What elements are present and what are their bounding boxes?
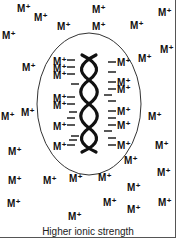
- free-cation-label: M+: [1, 112, 15, 122]
- free-cation-label: M+: [127, 205, 141, 215]
- free-cation-label: M+: [148, 112, 162, 122]
- free-cation-label: M+: [7, 199, 21, 209]
- negative-charge-dashes-right: [104, 62, 116, 145]
- free-cation-label: M+: [124, 156, 138, 166]
- free-cation-label: M+: [43, 176, 57, 186]
- free-cation-label: M+: [127, 183, 141, 193]
- bound-cation-label: M+: [117, 141, 131, 151]
- free-cation-label: M+: [160, 45, 174, 55]
- free-cation-label: M+: [130, 21, 144, 31]
- free-cation-label: M+: [17, 4, 31, 14]
- bound-cation-label: M+: [53, 142, 67, 152]
- bound-cation-label: M+: [53, 71, 67, 81]
- free-cation-label: M+: [68, 212, 82, 222]
- free-cation-label: M+: [21, 108, 35, 118]
- free-cation-label: M+: [157, 168, 171, 178]
- free-cation-label: M+: [138, 54, 152, 64]
- free-cation-label: M+: [98, 173, 112, 183]
- free-cation-label: M+: [57, 22, 71, 32]
- negative-charge-dashes-left: [67, 60, 79, 145]
- free-cation-label: M+: [2, 31, 16, 41]
- free-cation-label: M+: [103, 198, 117, 208]
- bound-cation-label: M+: [117, 121, 131, 131]
- bound-cation-label: M+: [117, 85, 131, 95]
- free-cation-label: M+: [92, 22, 106, 32]
- bound-cation-label: M+: [117, 58, 131, 68]
- figure-caption: Higher ionic strength: [0, 226, 176, 237]
- free-cation-label: M+: [8, 147, 22, 157]
- free-cation-label: M+: [34, 13, 48, 23]
- dna-helix-icon: [81, 55, 98, 152]
- bound-cation-label: M+: [53, 101, 67, 111]
- free-cation-label: M+: [92, 5, 106, 15]
- free-cation-label: M+: [69, 174, 83, 184]
- free-cation-label: M+: [22, 63, 36, 73]
- free-cation-label: M+: [8, 176, 22, 186]
- free-cation-label: M+: [155, 141, 169, 151]
- bound-cation-label: M+: [117, 107, 131, 117]
- bound-cation-label: M+: [53, 122, 67, 132]
- free-cation-label: M+: [158, 8, 172, 18]
- free-cation-label: M+: [158, 198, 172, 208]
